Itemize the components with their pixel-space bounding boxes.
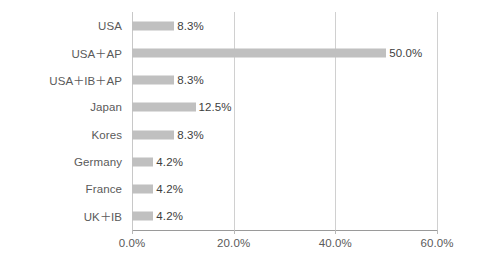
- bar-usa-ap[interactable]: [132, 48, 386, 57]
- bar-track-usa-ib-ap: 8.3%: [132, 67, 486, 94]
- category-label-usa-ap: USA＋AP: [0, 45, 122, 61]
- value-label-uk-ib: 4.2%: [156, 210, 183, 222]
- category-label-japan: Japan: [0, 101, 122, 113]
- bar-kores[interactable]: [132, 130, 174, 139]
- bar-row-kores: Kores 8.3%: [0, 121, 486, 148]
- bar-track-france: 4.2%: [132, 176, 486, 203]
- bar-row-france: France 4.2%: [0, 176, 486, 203]
- bar-row-japan: Japan 12.5%: [0, 94, 486, 121]
- bar-track-germany: 4.2%: [132, 148, 486, 175]
- x-tick-label-40: 40.0%: [300, 237, 370, 249]
- bar-row-germany: Germany 4.2%: [0, 148, 486, 175]
- category-label-germany: Germany: [0, 156, 122, 168]
- value-label-usa-ap: 50.0%: [389, 47, 422, 59]
- bar-usa[interactable]: [132, 21, 174, 30]
- category-label-usa-ib-ap: USA＋IB＋AP: [0, 72, 122, 88]
- bar-germany[interactable]: [132, 157, 153, 166]
- category-label-kores: Kores: [0, 129, 122, 141]
- bar-track-usa-ap: 50.0%: [132, 39, 486, 66]
- x-tick-40: [335, 230, 336, 234]
- x-axis-line: [132, 230, 438, 231]
- bar-track-japan: 12.5%: [132, 94, 486, 121]
- bar-japan[interactable]: [132, 103, 196, 112]
- bar-track-usa: 8.3%: [132, 12, 486, 39]
- value-label-usa-ib-ap: 8.3%: [177, 74, 204, 86]
- value-label-germany: 4.2%: [156, 156, 183, 168]
- value-label-usa: 8.3%: [177, 20, 204, 32]
- bar-usa-ib-ap[interactable]: [132, 76, 174, 85]
- x-tick-label-20: 20.0%: [199, 237, 269, 249]
- value-label-kores: 8.3%: [177, 129, 204, 141]
- category-label-uk-ib: UK＋IB: [0, 208, 122, 224]
- bar-track-uk-ib: 4.2%: [132, 203, 486, 230]
- bar-row-usa-ap: USA＋AP 50.0%: [0, 39, 486, 66]
- bar-row-usa: USA 8.3%: [0, 12, 486, 39]
- x-tick-20: [234, 230, 235, 234]
- bar-chart: USA 8.3% USA＋AP 50.0% USA＋IB＋AP 8.3% Jap…: [0, 0, 486, 270]
- x-tick-label-0: 0.0%: [97, 237, 167, 249]
- bar-row-usa-ib-ap: USA＋IB＋AP 8.3%: [0, 67, 486, 94]
- x-tick-label-60: 60.0%: [402, 237, 472, 249]
- value-label-japan: 12.5%: [199, 101, 232, 113]
- bar-france[interactable]: [132, 185, 153, 194]
- bar-track-kores: 8.3%: [132, 121, 486, 148]
- x-tick-0: [132, 230, 133, 234]
- x-tick-60: [437, 230, 438, 234]
- value-label-france: 4.2%: [156, 183, 183, 195]
- bar-uk-ib[interactable]: [132, 212, 153, 221]
- category-label-usa: USA: [0, 20, 122, 32]
- category-label-france: France: [0, 183, 122, 195]
- bar-row-uk-ib: UK＋IB 4.2%: [0, 203, 486, 230]
